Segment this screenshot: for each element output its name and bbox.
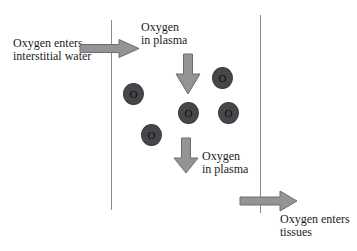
- tissue-exit-right-arrow-icon: [239, 190, 299, 212]
- label-line: Oxygen enters: [280, 213, 350, 226]
- label-oxygen-in-plasma-top: Oxygen in plasma: [141, 21, 187, 46]
- oxygen-cell: O: [123, 83, 144, 105]
- oxygen-cell-label: O: [225, 108, 233, 119]
- oxygen-cell: O: [218, 102, 239, 124]
- plasma-down-arrow-bottom-icon: [173, 137, 199, 174]
- label-line: in plasma: [141, 34, 187, 47]
- oxygen-cell-label: O: [148, 130, 156, 141]
- oxygen-cell-label: O: [185, 108, 193, 119]
- right-boundary-line: [260, 15, 261, 213]
- oxygen-diffusion-diagram: Oxygen enters interstitial water Oxygen …: [0, 0, 357, 251]
- plasma-down-arrow-top-icon: [175, 53, 201, 95]
- label-line: tissues: [280, 226, 350, 239]
- label-line: Oxygen: [141, 21, 187, 34]
- oxygen-cell: O: [212, 67, 233, 89]
- oxygen-entry-right-arrow-icon: [79, 38, 141, 59]
- oxygen-cell-label: O: [130, 89, 138, 100]
- oxygen-cell: O: [141, 124, 162, 146]
- oxygen-cell-label: O: [219, 73, 227, 84]
- label-oxygen-in-plasma-bottom: Oxygen in plasma: [202, 150, 248, 175]
- label-line: in plasma: [202, 163, 248, 176]
- oxygen-cell: O: [178, 102, 199, 124]
- label-line: Oxygen: [202, 150, 248, 163]
- label-oxygen-enters-tissues: Oxygen enters tissues: [280, 213, 350, 238]
